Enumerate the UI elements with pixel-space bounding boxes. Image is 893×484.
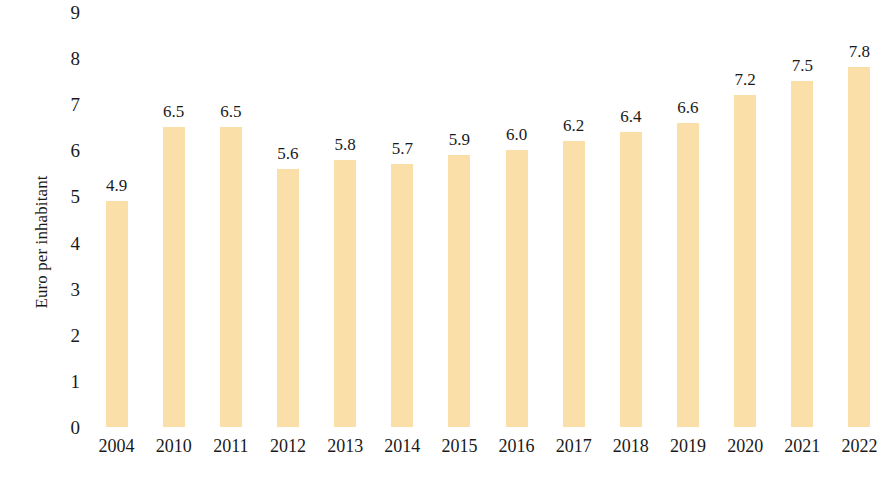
bar-value-label: 7.8 <box>849 43 870 60</box>
y-axis-tick-label: 2 <box>52 325 80 344</box>
bar[interactable] <box>220 127 242 427</box>
x-axis-tick-label: 2020 <box>727 437 763 457</box>
bar[interactable] <box>791 81 813 427</box>
bar-value-label: 7.2 <box>735 71 756 88</box>
bar-value-label: 6.4 <box>620 108 641 125</box>
y-axis-tick-label: 0 <box>52 418 80 437</box>
bar-group: 7.8 <box>831 12 888 427</box>
x-axis-tick-label: 2013 <box>327 437 363 457</box>
bar-group: 7.5 <box>774 12 831 427</box>
bar[interactable] <box>848 67 870 427</box>
y-axis-tick-label: 8 <box>52 49 80 68</box>
bar-group: 6.6 <box>659 12 716 427</box>
bar-value-label: 6.5 <box>163 103 184 120</box>
x-axis-tick-label: 2011 <box>213 437 248 457</box>
x-axis-tick-label: 2016 <box>499 437 535 457</box>
bar[interactable] <box>163 127 185 427</box>
bar[interactable] <box>334 160 356 427</box>
bar-group: 6.2 <box>545 12 602 427</box>
bar-value-label: 5.8 <box>335 136 356 153</box>
bar-value-label: 5.9 <box>449 131 470 148</box>
bar-group: 5.9 <box>431 12 488 427</box>
bar-value-label: 6.0 <box>506 126 527 143</box>
x-axis-tick-labels: 2004201020112012201320142015201620172018… <box>88 437 888 465</box>
y-axis-tick-label: 5 <box>52 187 80 206</box>
y-axis-tick-labels: 0123456789 <box>52 0 80 484</box>
bar-chart: Euro per inhabitant 0123456789 4.96.56.5… <box>0 0 893 484</box>
y-axis-tick-label: 3 <box>52 279 80 298</box>
y-axis-tick-label: 6 <box>52 141 80 160</box>
x-axis-tick-label: 2021 <box>784 437 820 457</box>
bar[interactable] <box>620 132 642 427</box>
bar[interactable] <box>563 141 585 427</box>
x-axis-tick-label: 2019 <box>670 437 706 457</box>
bar-value-label: 6.5 <box>220 103 241 120</box>
bar-group: 5.8 <box>317 12 374 427</box>
bar-value-label: 5.7 <box>392 140 413 157</box>
bar[interactable] <box>734 95 756 427</box>
bar[interactable] <box>506 150 528 427</box>
x-axis-tick-label: 2017 <box>556 437 592 457</box>
bar-group: 6.4 <box>602 12 659 427</box>
x-axis-tick-label: 2014 <box>384 437 420 457</box>
bar-value-label: 6.2 <box>563 117 584 134</box>
y-axis-tick-label: 1 <box>52 371 80 390</box>
bar-value-label: 4.9 <box>106 177 127 194</box>
bar-group: 5.7 <box>374 12 431 427</box>
y-axis-tick-label: 9 <box>52 3 80 22</box>
x-axis-tick-label: 2022 <box>841 437 877 457</box>
x-axis-tick-label: 2004 <box>99 437 135 457</box>
bar-group: 6.5 <box>202 12 259 427</box>
x-axis-tick-label: 2010 <box>156 437 192 457</box>
bar-group: 6.0 <box>488 12 545 427</box>
bar-group: 4.9 <box>88 12 145 427</box>
bar[interactable] <box>106 201 128 427</box>
bar[interactable] <box>391 164 413 427</box>
bar-value-label: 7.5 <box>792 57 813 74</box>
plot-area: 4.96.56.55.65.85.75.96.06.26.46.67.27.57… <box>88 12 888 427</box>
y-axis-tick-label: 4 <box>52 233 80 252</box>
bar-group: 7.2 <box>717 12 774 427</box>
x-axis-tick-label: 2018 <box>613 437 649 457</box>
bar-value-label: 6.6 <box>677 99 698 116</box>
bar[interactable] <box>277 169 299 427</box>
x-axis-tick-label: 2015 <box>441 437 477 457</box>
bar-value-label: 5.6 <box>277 145 298 162</box>
bar-group: 6.5 <box>145 12 202 427</box>
bar-group: 5.6 <box>259 12 316 427</box>
y-axis-tick-label: 7 <box>52 95 80 114</box>
x-axis-tick-label: 2012 <box>270 437 306 457</box>
bar[interactable] <box>448 155 470 427</box>
bar[interactable] <box>677 123 699 427</box>
